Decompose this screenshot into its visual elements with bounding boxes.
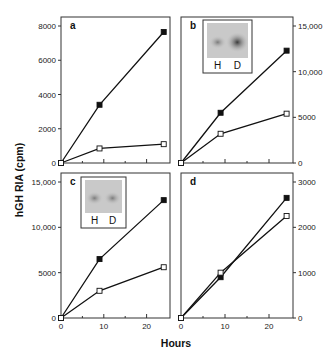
- figure: 02000400060008000a0500010,00015,000bHD05…: [0, 0, 327, 357]
- filled-square-marker: [97, 102, 102, 107]
- filled-square-marker: [161, 198, 166, 203]
- x-tick-label: 20: [265, 322, 274, 331]
- open-square-marker: [59, 316, 64, 321]
- panel-letter: a: [70, 20, 76, 31]
- filled-square-marker: [284, 48, 289, 53]
- series-line-open: [61, 144, 164, 163]
- open-square-marker: [218, 270, 223, 275]
- open-square-marker: [218, 131, 223, 136]
- panel-letter: d: [190, 176, 196, 187]
- y-axis-title: hGH RIA (cpm): [13, 143, 25, 217]
- open-square-marker: [284, 111, 289, 116]
- blot-band-h: [86, 191, 104, 205]
- y-tick-label: 15,000: [298, 22, 323, 31]
- panel-c: 0500010,00015,00001020cHD: [32, 173, 170, 331]
- filled-square-marker: [284, 195, 289, 200]
- x-tick-label: 10: [221, 322, 230, 331]
- y-tick-label: 15,000: [32, 178, 57, 187]
- x-axis-title: Hours: [161, 337, 191, 349]
- open-square-marker: [97, 146, 102, 151]
- y-tick-label: 2000: [298, 223, 316, 232]
- y-tick-label: 5000: [38, 269, 56, 278]
- northern-blot-inset: HD: [203, 20, 252, 73]
- panel-letter: b: [190, 20, 196, 31]
- open-square-marker: [161, 265, 166, 270]
- blot-band-h: [209, 35, 227, 49]
- open-square-marker: [161, 142, 166, 147]
- series-line-open: [61, 267, 164, 318]
- open-square-marker: [179, 161, 184, 166]
- open-square-marker: [179, 316, 184, 321]
- panel-letter: c: [70, 176, 76, 187]
- y-tick-label: 1000: [298, 269, 316, 278]
- blot-band-d: [104, 191, 122, 205]
- filled-square-marker: [161, 29, 166, 34]
- open-square-marker: [97, 288, 102, 293]
- y-tick-label: 0: [298, 159, 303, 168]
- x-tick-label: 20: [142, 322, 151, 331]
- open-square-marker: [59, 161, 64, 166]
- northern-blot-inset: HD: [81, 177, 126, 228]
- y-tick-label: 3000: [298, 178, 316, 187]
- lane-label: D: [234, 60, 241, 71]
- panel-b: 0500010,00015,000bHD: [179, 17, 324, 168]
- lane-label: H: [214, 60, 221, 71]
- y-tick-label: 10,000: [298, 68, 323, 77]
- y-tick-label: 4000: [38, 91, 56, 100]
- y-tick-label: 0: [298, 314, 303, 323]
- x-tick-label: 0: [179, 322, 184, 331]
- y-tick-label: 0: [52, 314, 57, 323]
- x-tick-label: 0: [59, 322, 64, 331]
- series-line-filled: [61, 32, 164, 163]
- lane-label: D: [109, 215, 116, 226]
- blot-band-d: [226, 32, 248, 52]
- panel-d: 010002000300001020d: [179, 173, 317, 331]
- y-tick-label: 2000: [38, 125, 56, 134]
- filled-square-marker: [97, 257, 102, 262]
- lane-label: H: [91, 215, 98, 226]
- y-tick-label: 8000: [38, 22, 56, 31]
- series-line-open: [181, 216, 287, 318]
- y-tick-label: 0: [52, 159, 57, 168]
- panel-frame: [181, 173, 293, 318]
- series-line-open: [181, 114, 287, 163]
- y-tick-label: 5000: [298, 113, 316, 122]
- filled-square-marker: [218, 110, 223, 115]
- panel-frame: [61, 17, 170, 163]
- y-tick-label: 10,000: [32, 223, 57, 232]
- y-tick-label: 6000: [38, 56, 56, 65]
- x-tick-label: 10: [99, 322, 108, 331]
- open-square-marker: [284, 214, 289, 219]
- panel-a: 02000400060008000a: [38, 17, 170, 168]
